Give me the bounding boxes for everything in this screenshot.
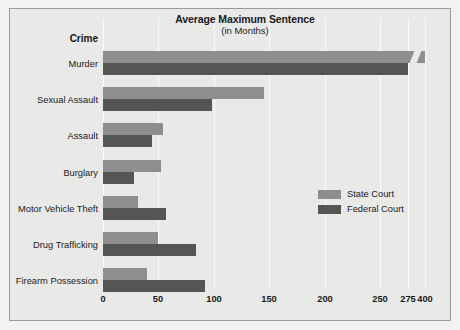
bar-federal-court-motor-vehicle-theft xyxy=(103,208,166,220)
bar-state-court-burglary xyxy=(103,160,161,172)
bar-federal-court-firearm-possession xyxy=(103,280,205,292)
bar-state-court-drug-trafficking xyxy=(103,232,158,244)
value-axis-tick-200: 200 xyxy=(310,294,340,304)
legend-swatch-state-court xyxy=(318,190,341,199)
legend: State Court Federal Court xyxy=(318,189,404,219)
bar-state-court-murder xyxy=(103,51,425,63)
category-label-burglary: Burglary xyxy=(8,168,98,178)
gridline-400 xyxy=(425,18,426,290)
bar-federal-court-murder xyxy=(103,63,408,75)
legend-item-state-court: State Court xyxy=(318,189,404,199)
bar-federal-court-burglary xyxy=(103,172,134,184)
bar-federal-court-drug-trafficking xyxy=(103,244,196,256)
legend-label-state-court: State Court xyxy=(347,189,394,199)
category-label-sexual-assault: Sexual Assault xyxy=(8,95,98,105)
legend-label-federal-court: Federal Court xyxy=(347,204,404,214)
chart-title: Average Maximum Sentence xyxy=(150,14,340,26)
bar-state-court-sexual-assault xyxy=(103,87,264,99)
bar-federal-court-assault xyxy=(103,135,152,147)
value-axis-tick-400: 400 xyxy=(410,294,440,304)
category-label-drug-trafficking: Drug Trafficking xyxy=(8,240,98,250)
bar-state-court-assault xyxy=(103,123,163,135)
value-axis-tick-150: 150 xyxy=(254,294,284,304)
chart-subtitle: (in Months) xyxy=(150,26,340,37)
value-axis-tick-100: 100 xyxy=(199,294,229,304)
value-axis-tick-250: 250 xyxy=(365,294,395,304)
legend-item-federal-court: Federal Court xyxy=(318,204,404,214)
legend-swatch-federal-court xyxy=(318,205,341,214)
category-label-motor-vehicle-theft: Motor Vehicle Theft xyxy=(8,204,98,214)
value-axis-tick-50: 50 xyxy=(143,294,173,304)
category-label-firearm-possession: Firearm Possession xyxy=(8,276,98,286)
category-label-murder: Murder xyxy=(8,59,98,69)
chart-title-block: Average Maximum Sentence (in Months) xyxy=(150,14,340,36)
bar-federal-court-sexual-assault xyxy=(103,99,212,111)
category-label-assault: Assault xyxy=(8,131,98,141)
category-axis-title: Crime xyxy=(20,33,98,44)
bar-state-court-motor-vehicle-theft xyxy=(103,196,138,208)
bar-state-court-firearm-possession xyxy=(103,268,147,280)
chart-container: Average Maximum Sentence (in Months) Cri… xyxy=(0,0,460,330)
value-axis-tick-0: 0 xyxy=(88,294,118,304)
